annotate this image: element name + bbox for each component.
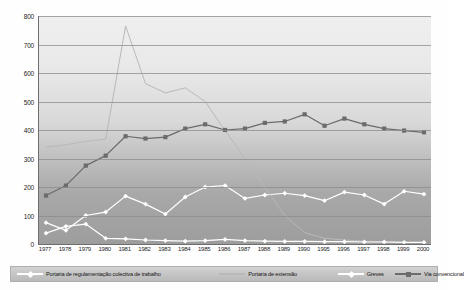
gridline bbox=[39, 130, 431, 131]
x-axis: 1977197819791980198119821983198419851986… bbox=[38, 246, 430, 258]
gridline bbox=[39, 16, 431, 17]
data-point-marker bbox=[322, 124, 326, 128]
x-axis-tick-label: 1996 bbox=[337, 246, 349, 252]
gridline bbox=[39, 102, 431, 103]
gridline bbox=[39, 216, 431, 217]
data-point-marker bbox=[262, 193, 267, 198]
x-axis-tick-label: 1985 bbox=[198, 246, 210, 252]
y-axis-tick-label: 800 bbox=[6, 13, 34, 20]
legend-label: Greves bbox=[367, 271, 384, 277]
data-point-marker bbox=[262, 239, 267, 244]
x-axis-tick-label: 1981 bbox=[118, 246, 130, 252]
x-axis-tick-label: 1980 bbox=[98, 246, 110, 252]
gridline bbox=[39, 73, 431, 74]
y-axis-tick-label: 500 bbox=[6, 98, 34, 105]
gridline bbox=[39, 45, 431, 46]
data-point-marker bbox=[342, 190, 347, 195]
data-point-marker bbox=[302, 239, 307, 244]
data-point-marker bbox=[183, 239, 188, 244]
x-axis-tick-label: 1979 bbox=[79, 246, 91, 252]
y-axis-tick-label: 100 bbox=[6, 212, 34, 219]
data-point-marker bbox=[402, 240, 407, 244]
gridline bbox=[39, 159, 431, 160]
data-point-marker bbox=[163, 135, 167, 139]
y-axis-tick-label: 700 bbox=[6, 41, 34, 48]
x-axis-tick-label: 1984 bbox=[178, 246, 190, 252]
data-point-marker bbox=[63, 224, 68, 229]
series-via-convencional bbox=[44, 112, 426, 197]
x-axis-tick-label: 2000 bbox=[417, 246, 429, 252]
data-point-marker bbox=[44, 193, 48, 197]
data-point-marker bbox=[143, 238, 148, 243]
data-point-marker bbox=[362, 193, 367, 198]
legend-swatch-icon bbox=[17, 270, 43, 278]
x-axis-tick-label: 1990 bbox=[297, 246, 309, 252]
data-point-marker bbox=[322, 239, 327, 244]
plot-area bbox=[38, 16, 431, 245]
x-axis-tick-label: 1998 bbox=[377, 246, 389, 252]
data-point-marker bbox=[143, 136, 147, 140]
y-axis-tick-label: 0 bbox=[6, 241, 34, 248]
x-axis-tick-label: 1995 bbox=[317, 246, 329, 252]
data-point-marker bbox=[123, 134, 127, 138]
data-point-marker bbox=[382, 240, 387, 244]
x-axis-tick-label: 1987 bbox=[238, 246, 250, 252]
data-point-marker bbox=[422, 240, 427, 244]
legend-item[interactable]: Greves bbox=[334, 267, 391, 281]
data-point-marker bbox=[342, 117, 346, 121]
data-point-marker bbox=[362, 122, 366, 126]
x-axis-tick-label: 1977 bbox=[39, 246, 51, 252]
data-point-marker bbox=[44, 220, 49, 225]
data-point-marker bbox=[143, 202, 148, 207]
series-portaria-de-extens-o bbox=[46, 26, 424, 243]
y-axis-tick-label: 200 bbox=[6, 184, 34, 191]
data-point-marker bbox=[44, 231, 49, 236]
data-point-marker bbox=[282, 239, 287, 244]
legend-swatch-icon bbox=[395, 270, 421, 278]
data-point-marker bbox=[303, 112, 307, 116]
x-axis-tick-label: 1988 bbox=[258, 246, 270, 252]
x-axis-tick-label: 1997 bbox=[357, 246, 369, 252]
y-axis-tick-label: 400 bbox=[6, 127, 34, 134]
data-point-marker bbox=[283, 119, 287, 123]
series-line bbox=[46, 114, 424, 195]
data-point-marker bbox=[203, 122, 207, 126]
legend-item[interactable]: Portaria de extensão bbox=[215, 267, 333, 281]
legend-label: Portaria de regulamentação colectiva de … bbox=[46, 271, 161, 277]
legend-item[interactable]: Via convencional bbox=[391, 267, 437, 281]
gridline bbox=[39, 187, 431, 188]
legend-swatch-icon bbox=[219, 270, 245, 278]
x-axis-tick-label: 1989 bbox=[278, 246, 290, 252]
y-axis-tick-label: 600 bbox=[6, 70, 34, 77]
legend-label: Via convencional bbox=[424, 271, 464, 277]
series-line bbox=[46, 224, 424, 242]
series-line bbox=[46, 186, 424, 231]
x-axis-tick-label: 1982 bbox=[138, 246, 150, 252]
data-point-marker bbox=[203, 238, 208, 243]
data-point-marker bbox=[84, 164, 88, 168]
data-point-marker bbox=[263, 121, 267, 125]
x-axis-tick-label: 1986 bbox=[218, 246, 230, 252]
y-axis-tick-label: 300 bbox=[6, 155, 34, 162]
data-point-marker bbox=[163, 238, 168, 243]
data-point-marker bbox=[104, 154, 108, 158]
series-line bbox=[46, 26, 424, 243]
data-point-marker bbox=[322, 198, 327, 203]
data-point-marker bbox=[422, 192, 427, 197]
data-point-marker bbox=[282, 191, 287, 196]
data-point-marker bbox=[362, 240, 367, 244]
x-axis-tick-label: 1978 bbox=[59, 246, 71, 252]
x-axis-tick-label: 1999 bbox=[397, 246, 409, 252]
legend-swatch-icon bbox=[338, 270, 364, 278]
data-point-marker bbox=[243, 238, 248, 243]
series-greves bbox=[44, 222, 427, 244]
data-point-marker bbox=[302, 193, 307, 198]
series-portaria-de-regulamenta-o-colectiva-de-trabalho bbox=[44, 183, 427, 233]
legend-label: Portaria de extensão bbox=[248, 271, 297, 277]
data-point-marker bbox=[223, 237, 228, 242]
x-axis-tick-label: 1983 bbox=[158, 246, 170, 252]
data-point-marker bbox=[123, 236, 128, 241]
chart-legend: Portaria de regulamentação colectiva de … bbox=[10, 266, 438, 282]
legend-item[interactable]: Portaria de regulamentação colectiva de … bbox=[11, 267, 215, 281]
